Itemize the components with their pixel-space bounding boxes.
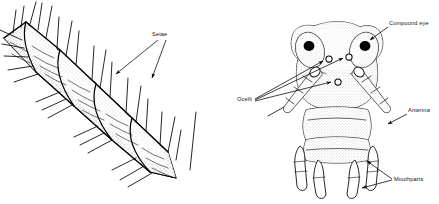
figure-container: Setae — [0, 0, 439, 204]
label-setae-text: Setae — [152, 31, 167, 37]
mouthpart-inner-left-shaft — [314, 160, 326, 199]
compound-eye-left-pupil — [304, 41, 315, 51]
label-ocelli-text: Ocelli — [237, 96, 252, 102]
ocellus-right — [346, 54, 352, 60]
mouthpart-inner-right — [347, 160, 360, 199]
body-segments — [303, 107, 371, 163]
panel-anterior-head: Compound eye Ocelli Antenna Mouthparts — [237, 20, 431, 199]
ocellus-left — [326, 56, 332, 62]
mouthpart-inner-left — [313, 160, 326, 199]
panel-segmented-appendage: Setae — [0, 2, 196, 187]
appendage-highlight — [18, 26, 168, 168]
illustration-canvas: Setae — [0, 0, 439, 204]
ocellus-median — [335, 79, 341, 85]
compound-eye-right-pupil — [360, 41, 371, 51]
label-setae-leader-1 — [116, 40, 158, 74]
label-setae-group: Setae — [116, 31, 167, 78]
setae-group-dorsal — [13, 2, 196, 170]
label-setae-leader-2 — [152, 40, 166, 78]
label-antenna-group: Antenna — [388, 107, 431, 124]
label-antenna-leader — [388, 114, 407, 124]
label-compound-eye-text: Compound eye — [389, 20, 429, 26]
body-segment-2-shading — [304, 137, 371, 163]
label-antenna-text: Antenna — [408, 107, 431, 113]
label-mouthparts-text: Mouthparts — [394, 176, 424, 182]
mouthpart-inner-right-shaft — [347, 160, 359, 199]
